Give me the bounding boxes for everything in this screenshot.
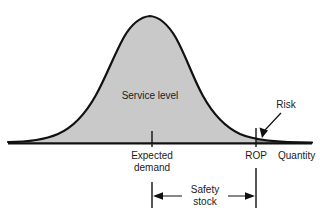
distribution-chart: Service level Risk Expected demand ROP Q… — [0, 0, 320, 216]
rop-label: ROP — [245, 150, 267, 161]
quantity-axis-label: Quantity — [278, 150, 315, 161]
risk-leader-line — [265, 113, 281, 130]
service-level-label: Service level — [122, 90, 179, 101]
safety-stock-label-line2: stock — [193, 196, 217, 207]
risk-label: Risk — [276, 99, 296, 110]
safety-stock-label-line1: Safety — [191, 184, 219, 195]
expected-demand-label-line2: demand — [134, 162, 170, 173]
diagram-root: Service level Risk Expected demand ROP Q… — [0, 0, 320, 216]
safety-stock-left-arrowhead-icon — [153, 192, 163, 200]
expected-demand-label-line1: Expected — [131, 150, 173, 161]
service-level-region — [8, 16, 312, 143]
safety-stock-right-arrowhead-icon — [245, 192, 255, 200]
risk-arrowhead-icon — [260, 128, 269, 139]
